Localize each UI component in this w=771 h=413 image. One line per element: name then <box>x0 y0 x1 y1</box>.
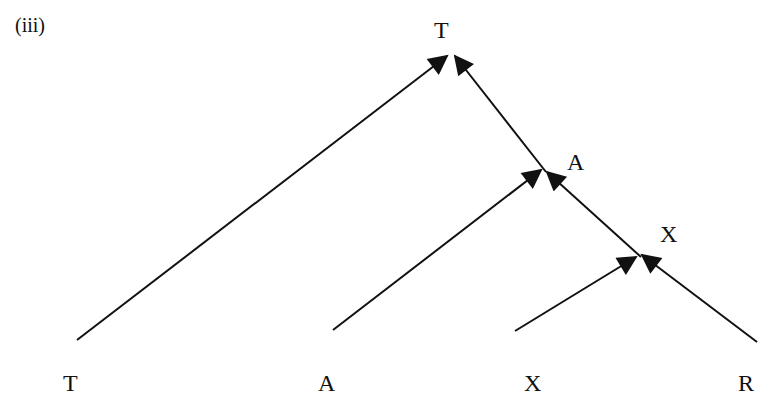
leaf-label-R: R <box>738 371 754 395</box>
edge-A-node-to-root <box>455 56 546 172</box>
edge-T-leaf-to-root <box>77 56 447 340</box>
leaf-label-T: T <box>63 371 78 395</box>
tree-edges <box>0 0 771 413</box>
leaf-label-A: A <box>318 371 335 395</box>
edge-R-leaf-to-X-node <box>642 255 757 342</box>
node-label-A: A <box>567 150 584 174</box>
edge-X-node-to-A-node <box>547 172 641 257</box>
leaf-label-X: X <box>524 371 541 395</box>
edge-A-leaf-to-A-node <box>333 170 541 330</box>
edge-X-leaf-to-X-node <box>515 257 636 331</box>
root-label: T <box>434 18 449 42</box>
node-label-X: X <box>660 222 677 246</box>
